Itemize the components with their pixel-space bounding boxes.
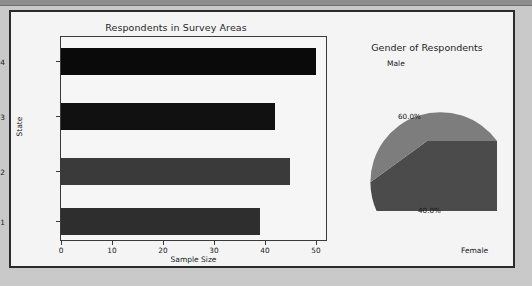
y-tick-label-area4: Area 4 bbox=[0, 58, 5, 67]
bar-area3 bbox=[61, 103, 275, 130]
x-tick-mark-0 bbox=[61, 241, 62, 245]
bar-chart-y-axis-label: State bbox=[15, 82, 24, 172]
x-tick-label-50: 50 bbox=[304, 246, 328, 255]
pie-chart-graphic bbox=[357, 71, 497, 211]
y-tick-label-area3: Area 3 bbox=[0, 113, 5, 122]
x-tick-mark-50 bbox=[316, 241, 317, 245]
bar-row-area2 bbox=[61, 158, 290, 185]
y-tick-mark-area1 bbox=[56, 221, 60, 222]
bar-chart-title: Respondents in Survey Areas bbox=[11, 22, 341, 33]
bar-area4 bbox=[61, 48, 316, 75]
bar-area1 bbox=[61, 208, 260, 235]
y-tick-mark-area2 bbox=[56, 171, 60, 172]
bar-row-area3 bbox=[61, 103, 275, 130]
y-tick-mark-area3 bbox=[56, 116, 60, 117]
pie-percent-female: 40.0% bbox=[418, 206, 441, 215]
bar-chart-x-axis-label: Sample Size bbox=[60, 255, 327, 264]
bar-row-area1 bbox=[61, 208, 260, 235]
x-tick-mark-30 bbox=[214, 241, 215, 245]
pie-percent-male: 60.0% bbox=[398, 112, 421, 121]
pie-chart-title: Gender of Respondents bbox=[341, 42, 513, 53]
figure-canvas: Respondents in Survey Areas State Area 4… bbox=[9, 10, 515, 268]
bar-chart-panel: Respondents in Survey Areas State Area 4… bbox=[11, 12, 341, 266]
y-tick-label-area1: Area 1 bbox=[0, 218, 5, 227]
x-tick-mark-10 bbox=[112, 241, 113, 245]
pie-label-male: Male bbox=[387, 59, 405, 68]
bar-area2 bbox=[61, 158, 290, 185]
x-tick-label-40: 40 bbox=[253, 246, 277, 255]
x-tick-label-20: 20 bbox=[151, 246, 175, 255]
y-tick-label-area2: Area 2 bbox=[0, 168, 5, 177]
bar-row-area4 bbox=[61, 48, 316, 75]
window-top-strip bbox=[0, 0, 532, 6]
y-tick-mark-area4 bbox=[56, 61, 60, 62]
x-tick-label-30: 30 bbox=[202, 246, 226, 255]
pie-label-female: Female bbox=[461, 246, 488, 255]
x-tick-label-10: 10 bbox=[100, 246, 124, 255]
x-tick-mark-20 bbox=[163, 241, 164, 245]
x-tick-label-0: 0 bbox=[49, 246, 73, 255]
pie-chart-panel: Gender of Respondents 60.0% 40.0% Male F… bbox=[341, 12, 513, 266]
x-tick-mark-40 bbox=[265, 241, 266, 245]
